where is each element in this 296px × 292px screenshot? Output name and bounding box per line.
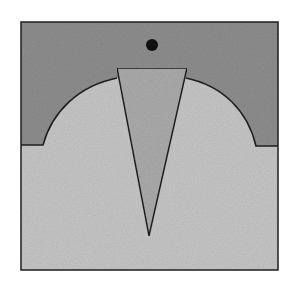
black-dot — [146, 39, 158, 51]
diagram-canvas — [0, 0, 296, 292]
